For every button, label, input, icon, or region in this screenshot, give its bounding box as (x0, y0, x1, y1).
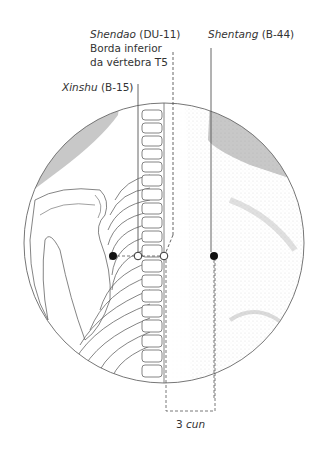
shentang-name: Shentang (208, 28, 258, 40)
measure-value: 3 (176, 418, 183, 430)
xinshu-code: (B-15) (101, 81, 134, 93)
shentang-code: (B-44) (262, 28, 295, 40)
shendao-line3: da vértebra T5 (90, 55, 180, 69)
point-marker-filled-left (109, 252, 117, 260)
point-shentang (210, 252, 218, 260)
measure-unit: cun (186, 418, 205, 430)
label-xinshu: Xinshu (B-15) (62, 80, 133, 94)
xinshu-name: Xinshu (62, 81, 98, 93)
point-xinshu (134, 252, 142, 260)
shendao-code: (DU-11) (139, 28, 180, 40)
label-measure: 3 cun (176, 417, 205, 431)
point-shendao (160, 252, 168, 260)
label-shendao: Shendao (DU-11) Borda inferior da vérteb… (90, 27, 180, 69)
label-shentang: Shentang (B-44) (208, 27, 294, 41)
shendao-name: Shendao (90, 28, 136, 40)
shendao-line2: Borda inferior (90, 41, 180, 55)
